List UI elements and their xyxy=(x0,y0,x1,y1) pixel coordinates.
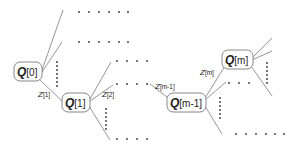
edge-q0-branch-upper xyxy=(42,42,62,72)
dots-col-q1 xyxy=(105,108,107,130)
edges xyxy=(40,10,272,140)
dots-col-qm1 xyxy=(219,97,221,119)
node-q1-label: Q[1] xyxy=(65,96,86,110)
dots-row-q1-top xyxy=(116,60,148,62)
dots-row-qm1-upper xyxy=(228,82,250,84)
dots-col-qm xyxy=(266,62,268,84)
edge-label-z1: Z[1] xyxy=(37,90,50,99)
tree-diagram: Q[0] Q[1] Q[m-1] Q[m] Z[1] Z[2] Z[m-1] Z… xyxy=(0,0,297,147)
dots-row-q1-upper xyxy=(116,83,148,85)
node-q0: Q[0] xyxy=(14,62,42,81)
edge-qm-branch-bottom xyxy=(251,66,272,96)
dots-row-q1-bottom xyxy=(116,138,148,140)
edge-label-zm: Z[m] xyxy=(199,68,214,77)
edge-qm1-branch-upper xyxy=(205,82,226,100)
dots-col-q0 xyxy=(56,61,58,87)
edge-label-z2: Z[2] xyxy=(101,90,114,99)
node-qm1-label: Q[m-1] xyxy=(170,96,202,110)
edge-label-zm1: Z[m-1] xyxy=(154,82,175,91)
edge-q0-branch-top xyxy=(42,10,63,70)
node-q0-label: Q[0] xyxy=(17,65,38,79)
dots-row-q0-upper xyxy=(78,41,129,43)
edge-qm-branch-top xyxy=(252,38,272,58)
dots-row-qm1-bottom xyxy=(235,133,285,135)
edge-q1-branch-bottom xyxy=(89,106,110,140)
node-qm: Q[m] xyxy=(222,50,253,69)
node-qm-label: Q[m] xyxy=(225,53,248,67)
node-q1: Q[1] xyxy=(62,93,90,112)
dotted-rows xyxy=(78,11,285,140)
node-qm1: Q[m-1] xyxy=(167,93,206,112)
dots-row-q0-top xyxy=(78,11,129,13)
